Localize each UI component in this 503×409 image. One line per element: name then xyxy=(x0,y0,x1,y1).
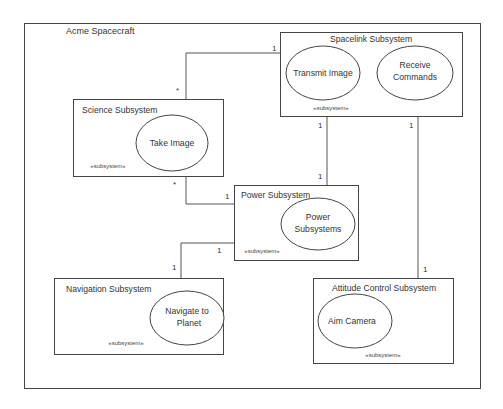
science-title: Science Subsystem xyxy=(82,105,157,115)
multiplicity-attitude-top: 1 xyxy=(423,265,428,274)
spacelink-subsystem[interactable]: Spacelink Subsystem Transmit Image Recei… xyxy=(281,33,463,117)
navigation-stereotype: «subsystem» xyxy=(108,340,144,346)
use-case-receive-commands-line2: Commands xyxy=(393,72,437,82)
system-title: Acme Spacecraft xyxy=(66,26,135,36)
use-case-power-subsystems-line1: Power xyxy=(306,212,330,222)
multiplicity-science-top: * xyxy=(176,86,179,95)
science-subsystem[interactable]: Science Subsystem Take Image «subsystem» xyxy=(74,100,224,177)
multiplicity-spacelink-left: 1 xyxy=(272,44,277,53)
use-case-receive-commands-line1: Receive xyxy=(399,60,430,70)
power-title: Power Subsystem xyxy=(241,190,310,200)
multiplicity-spacelink-bottom-right: 1 xyxy=(409,121,414,130)
power-subsystem[interactable]: Power Subsystem Power Subsystems «subsys… xyxy=(235,186,359,261)
spacelink-title: Spacelink Subsystem xyxy=(330,34,412,44)
science-stereotype: «subsystem» xyxy=(90,163,126,169)
navigation-title: Navigation Subsystem xyxy=(66,284,152,294)
attitude-control-subsystem[interactable]: Attitude Control Subsystem Aim Camera «s… xyxy=(314,279,454,364)
use-case-navigate-line1: Navigate to xyxy=(165,306,209,316)
attitude-title: Attitude Control Subsystem xyxy=(332,283,436,293)
multiplicity-science-bottom: * xyxy=(173,180,176,189)
use-case-transmit-image-label: Transmit Image xyxy=(293,68,353,78)
multiplicity-power-bottom-left: 1 xyxy=(217,246,222,255)
multiplicity-spacelink-bottom-left: 1 xyxy=(318,121,323,130)
use-case-take-image-label: Take Image xyxy=(150,138,195,148)
multiplicity-navigation-top: 1 xyxy=(172,263,177,272)
attitude-stereotype: «subsystem» xyxy=(365,352,401,358)
use-case-power-subsystems-line2: Subsystems xyxy=(295,224,342,234)
spacelink-stereotype: «subsystem» xyxy=(313,105,349,111)
multiplicity-power-top: 1 xyxy=(318,172,323,181)
use-case-aim-camera-label: Aim Camera xyxy=(328,316,376,326)
uml-diagram: Acme Spacecraft * 1 * 1 1 1 1 1 1 1 Spac… xyxy=(0,0,503,409)
multiplicity-power-left: 1 xyxy=(225,192,230,201)
power-stereotype: «subsystem» xyxy=(244,248,280,254)
use-case-navigate-line2: Planet xyxy=(177,318,202,328)
navigation-subsystem[interactable]: Navigation Subsystem Navigate to Planet … xyxy=(55,279,225,355)
